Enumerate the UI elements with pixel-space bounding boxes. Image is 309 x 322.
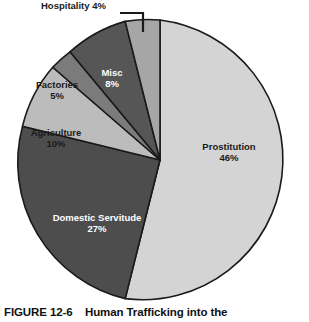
figure-caption: FIGURE 12-6 Human Trafficking into the: [4, 306, 309, 318]
figure-caption-title: Human Trafficking into the: [85, 306, 227, 318]
pie-chart: [0, 0, 309, 322]
figure-container: Hospitality 4% Misc 8% Factories 5% Agri…: [0, 0, 309, 322]
pie-slices: [18, 19, 283, 299]
figure-caption-number: FIGURE 12-6: [4, 306, 73, 318]
